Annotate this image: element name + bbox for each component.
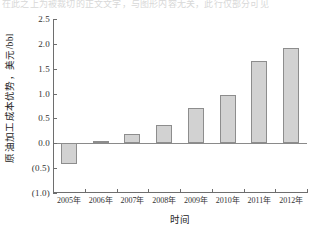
y-axis-tick <box>53 94 57 95</box>
y-axis-tick-label: 1.5 <box>16 64 50 73</box>
y-axis-tick <box>53 44 57 45</box>
y-axis-tick <box>53 143 57 144</box>
bar <box>251 61 267 143</box>
x-axis-tick-label: 2008年 <box>152 196 176 206</box>
x-axis-tick <box>53 189 54 193</box>
y-axis-tick <box>53 193 57 194</box>
bar-chart-figure: 原油加工成本优势，美元/bbl 2.52.01.51.00.50.0(0.5)(… <box>0 0 313 235</box>
x-axis-tick-label: 2009年 <box>184 196 208 206</box>
y-axis-tick-labels: 2.52.01.51.00.50.0(0.5)(1.0) <box>14 0 50 235</box>
x-axis-title: 时间 <box>53 212 307 226</box>
x-axis-tick <box>275 189 276 193</box>
y-axis-tick <box>53 168 57 169</box>
y-axis-tick-label: 0.5 <box>16 114 50 123</box>
y-axis-tick <box>53 69 57 70</box>
x-axis-tick-label: 2012年 <box>279 196 303 206</box>
x-axis-tick-label: 2006年 <box>89 196 113 206</box>
y-axis-tick-label: 0.0 <box>16 139 50 148</box>
y-axis-spine <box>53 19 54 193</box>
plot-area <box>53 19 307 193</box>
bar <box>61 143 77 164</box>
y-axis-tick <box>53 19 57 20</box>
x-axis-tick-label: 2007年 <box>120 196 144 206</box>
y-axis-tick-label: 2.0 <box>16 39 50 48</box>
x-axis-tick <box>148 189 149 193</box>
x-axis-tick <box>244 189 245 193</box>
x-axis-tick <box>212 189 213 193</box>
bar <box>283 48 299 143</box>
bar <box>124 134 140 143</box>
x-axis-tick-labels: 2005年2006年2007年2008年2009年2010年2011年2012年 <box>53 196 307 210</box>
x-axis-tick-label: 2005年 <box>57 196 81 206</box>
y-axis-tick-label: 1.0 <box>16 89 50 98</box>
y-axis-tick-label: (0.5) <box>16 164 50 173</box>
x-axis-tick <box>117 189 118 193</box>
y-axis-tick-label: 2.5 <box>16 15 50 24</box>
x-axis-tick-label: 2011年 <box>248 196 272 206</box>
x-axis-tick <box>307 189 308 193</box>
x-axis-tick <box>85 189 86 193</box>
bar <box>156 125 172 143</box>
zero-baseline <box>53 143 307 144</box>
bar <box>188 108 204 143</box>
x-axis-tick-label: 2010年 <box>216 196 240 206</box>
y-axis-tick <box>53 118 57 119</box>
x-axis-tick <box>180 189 181 193</box>
y-axis-tick-label: (1.0) <box>16 189 50 198</box>
bar <box>220 95 236 144</box>
bar <box>93 141 109 143</box>
